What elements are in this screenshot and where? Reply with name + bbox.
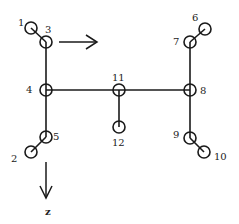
z-axis-label: z: [45, 206, 51, 217]
label-node-2: 2: [11, 153, 17, 164]
label-node-6: 6: [192, 12, 198, 23]
z-axis-arrow-down-icon: [40, 162, 52, 198]
label-node-1: 1: [18, 17, 24, 28]
edge-5-2: [31, 137, 46, 152]
molecular-graph-diagram: 1 2 3 4 5 6 7 8 9 10 11 12 z: [0, 0, 239, 224]
label-node-11: 11: [112, 72, 125, 83]
label-node-8: 8: [200, 85, 206, 96]
direction-arrow-right-icon: [59, 35, 97, 49]
label-node-7: 7: [173, 36, 179, 47]
label-node-12: 12: [112, 137, 125, 148]
label-node-9: 9: [173, 129, 179, 140]
label-node-10: 10: [214, 151, 227, 162]
label-node-3: 3: [45, 24, 51, 35]
label-node-5: 5: [53, 131, 59, 142]
edge-1-3: [31, 28, 46, 42]
edge-6-7: [190, 29, 205, 42]
label-node-4: 4: [26, 84, 32, 95]
edge-9-10: [190, 138, 204, 152]
